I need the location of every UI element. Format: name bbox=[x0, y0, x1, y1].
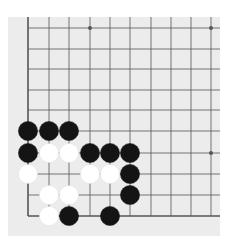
go-board-grid[interactable] bbox=[0, 0, 232, 247]
star-point bbox=[88, 26, 92, 30]
grid-lines bbox=[28, 17, 220, 216]
white-stone[interactable] bbox=[59, 143, 78, 162]
star-points bbox=[88, 26, 213, 155]
black-stone[interactable] bbox=[100, 206, 119, 225]
star-point bbox=[209, 26, 213, 30]
white-stone[interactable] bbox=[39, 206, 58, 225]
white-stone[interactable] bbox=[18, 164, 37, 183]
black-stone[interactable] bbox=[120, 185, 139, 204]
black-stone[interactable] bbox=[18, 121, 37, 140]
black-stone[interactable] bbox=[59, 121, 78, 140]
white-stone[interactable] bbox=[39, 185, 58, 204]
black-stone[interactable] bbox=[80, 143, 99, 162]
white-stone[interactable] bbox=[100, 164, 119, 183]
black-stone[interactable] bbox=[18, 143, 37, 162]
stones bbox=[18, 121, 139, 225]
black-stone[interactable] bbox=[120, 143, 139, 162]
black-stone[interactable] bbox=[39, 121, 58, 140]
black-stone[interactable] bbox=[59, 206, 78, 225]
white-stone[interactable] bbox=[59, 185, 78, 204]
star-point bbox=[209, 151, 213, 155]
black-stone[interactable] bbox=[120, 164, 139, 183]
white-stone[interactable] bbox=[39, 143, 58, 162]
white-stone[interactable] bbox=[80, 164, 99, 183]
black-stone[interactable] bbox=[100, 143, 119, 162]
